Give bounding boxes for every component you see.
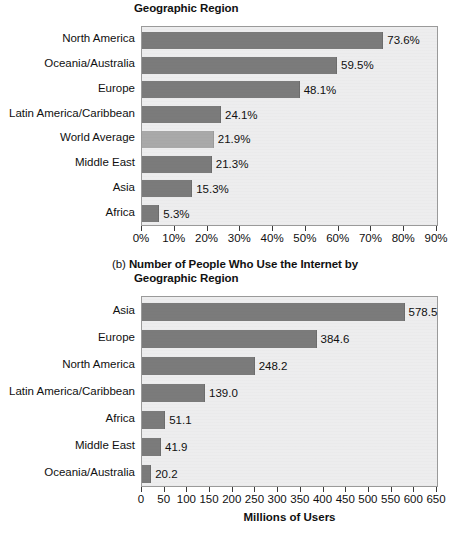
axis-tick — [403, 226, 404, 231]
axis-tick-label: 300 — [268, 493, 287, 505]
axis-tick-label: 10% — [162, 232, 185, 244]
chart-a-title: (a) Percentage of Population That Uses t… — [112, 0, 452, 15]
category-label: Latin America/Caribbean — [0, 385, 135, 397]
bar-value-label: 51.1 — [165, 414, 191, 426]
axis-tick-label: 500 — [358, 493, 377, 505]
category-label: Asia — [0, 304, 135, 316]
chart-b-panel: 578.5384.6248.2139.051.141.920.2 AsiaEur… — [0, 296, 460, 544]
bar-row: 20.2 — [142, 465, 437, 483]
bar-value-label: 73.6% — [383, 34, 420, 46]
bar-row: 5.3% — [142, 205, 437, 222]
bar-value-label: 48.1% — [300, 84, 337, 96]
bar — [142, 357, 255, 375]
axis-tick-label: 250 — [245, 493, 264, 505]
category-label: Oceania/Australia — [0, 466, 135, 478]
axis-tick — [345, 487, 346, 492]
axis-tick-label: 600 — [404, 493, 423, 505]
chart-b-title-line2: Geographic Region — [134, 272, 452, 286]
bar-row: 21.3% — [142, 156, 437, 173]
bar — [142, 156, 212, 173]
category-label: Asia — [0, 181, 135, 193]
category-label: Middle East — [0, 156, 135, 168]
bar-value-label: 5.3% — [159, 208, 189, 220]
bar-row: 24.1% — [142, 106, 437, 123]
axis-tick-label: 0% — [133, 232, 150, 244]
bar — [142, 131, 214, 148]
bar — [142, 180, 192, 197]
axis-tick — [239, 226, 240, 231]
category-label: World Average — [0, 131, 135, 143]
bar-row: 21.9% — [142, 131, 437, 148]
axis-tick-label: 50% — [293, 232, 316, 244]
axis-tick-label: 100 — [177, 493, 196, 505]
chart-b-title: (b) Number of People Who Use the Interne… — [112, 258, 452, 285]
category-label: Europe — [0, 331, 135, 343]
bar-row: 51.1 — [142, 411, 437, 429]
chart-a-panel: 73.6%59.5%48.1%24.1%21.9%21.3%15.3%5.3% … — [0, 26, 460, 254]
bar-row: 248.2 — [142, 357, 437, 375]
axis-tick — [174, 226, 175, 231]
category-label: North America — [0, 32, 135, 44]
bar — [142, 106, 221, 123]
bar — [142, 57, 337, 74]
bar-value-label: 24.1% — [221, 109, 258, 121]
axis-tick — [207, 226, 208, 231]
bar — [142, 465, 151, 483]
axis-tick — [413, 487, 414, 492]
bar-value-label: 384.6 — [317, 333, 350, 345]
axis-tick — [436, 226, 437, 231]
bar-value-label: 139.0 — [205, 387, 238, 399]
bar-value-label: 578.5 — [405, 306, 438, 318]
bar — [142, 411, 165, 429]
category-label: North America — [0, 358, 135, 370]
category-label: Europe — [0, 82, 135, 94]
bar-row: 139.0 — [142, 384, 437, 402]
bar — [142, 303, 405, 321]
bar-row: 73.6% — [142, 32, 437, 49]
category-label: Middle East — [0, 439, 135, 451]
category-label: Latin America/Caribbean — [0, 107, 135, 119]
bar-value-label: 21.9% — [214, 133, 251, 145]
axis-tick — [436, 487, 437, 492]
axis-tick — [277, 487, 278, 492]
axis-tick-label: 550 — [381, 493, 400, 505]
category-label: Africa — [0, 412, 135, 424]
axis-tick — [300, 487, 301, 492]
axis-tick — [164, 487, 165, 492]
axis-tick-label: 350 — [290, 493, 309, 505]
bar-row: 384.6 — [142, 330, 437, 348]
bar-value-label: 59.5% — [337, 59, 374, 71]
category-label: Africa — [0, 206, 135, 218]
axis-tick — [338, 226, 339, 231]
bar — [142, 384, 205, 402]
axis-tick-label: 30% — [228, 232, 251, 244]
axis-tick-label: 150 — [199, 493, 218, 505]
axis-tick-label: 0 — [138, 493, 144, 505]
bar-value-label: 21.3% — [212, 158, 249, 170]
axis-tick — [141, 226, 142, 231]
bar-row: 15.3% — [142, 180, 437, 197]
chart-b-plot-area: 578.5384.6248.2139.051.141.920.2 — [141, 296, 438, 487]
axis-tick — [254, 487, 255, 492]
bar-row: 48.1% — [142, 81, 437, 98]
bar — [142, 81, 300, 98]
chart-b-x-axis-title: Millions of Users — [141, 511, 438, 523]
chart-a-plot-area: 73.6%59.5%48.1%24.1%21.9%21.3%15.3%5.3% — [141, 26, 438, 226]
axis-tick — [323, 487, 324, 492]
bar — [142, 438, 161, 456]
chart-b-panel-label: (b) — [112, 258, 126, 270]
axis-tick — [232, 487, 233, 492]
bar — [142, 205, 159, 222]
bar-value-label: 20.2 — [151, 468, 177, 480]
axis-tick-label: 450 — [336, 493, 355, 505]
axis-tick-label: 80% — [392, 232, 415, 244]
axis-tick — [186, 487, 187, 492]
axis-tick-label: 200 — [222, 493, 241, 505]
bar-value-label: 15.3% — [192, 183, 229, 195]
category-label: Oceania/Australia — [0, 57, 135, 69]
axis-tick — [305, 226, 306, 231]
axis-tick — [391, 487, 392, 492]
axis-tick-label: 20% — [195, 232, 218, 244]
bar-value-label: 41.9 — [161, 441, 187, 453]
axis-tick — [370, 226, 371, 231]
